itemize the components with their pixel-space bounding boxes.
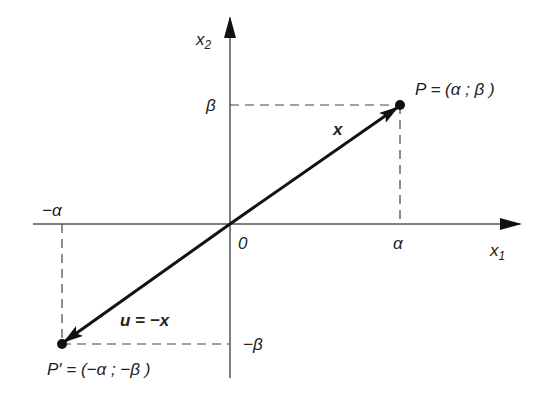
point-P-label: P = (α ; β ) [415, 80, 495, 99]
alpha-label: α [393, 234, 404, 253]
neg-alpha-label: −α [42, 201, 63, 220]
vector-x [230, 107, 398, 224]
point-P [395, 100, 405, 110]
point-P-prime-label: P′ = (−α ; −β ) [47, 360, 150, 379]
vector-x-label: x [332, 120, 344, 139]
vector-diagram: x2 x1 0 α −α β −β P = (α ; β ) P′ = (−α … [0, 0, 544, 399]
origin-label: 0 [238, 234, 248, 253]
neg-beta-label: −β [243, 335, 263, 354]
x-axis-label: x1 [489, 241, 505, 263]
beta-label: β [205, 96, 216, 115]
vector-u-label: u = −x [120, 311, 171, 330]
point-P-prime [57, 339, 67, 349]
y-axis-label: x2 [195, 30, 212, 52]
